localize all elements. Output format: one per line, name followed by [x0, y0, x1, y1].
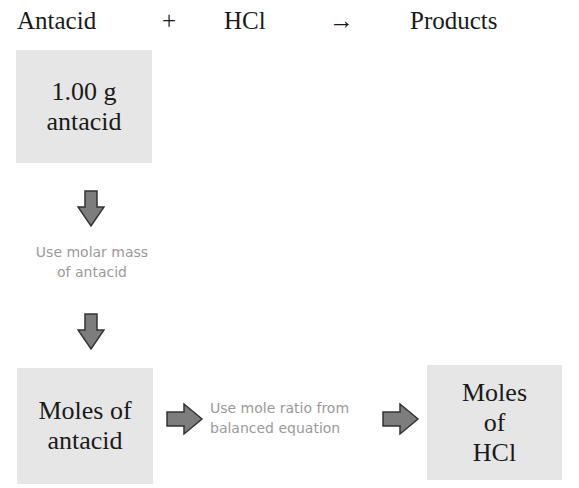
right-arrow-icon	[166, 402, 204, 436]
equation-plus-sign: +	[162, 6, 176, 36]
box-grams-antacid-line1: 1.00 g	[46, 77, 121, 107]
equation-yields-arrow: →	[329, 6, 354, 36]
equation-reactant-hcl: HCl	[224, 6, 266, 36]
step-mole-ratio-line1: Use mole ratio from	[210, 398, 349, 418]
right-arrow-icon	[382, 402, 420, 436]
step-molar-mass-line2: of antacid	[0, 262, 184, 282]
equation-reactant-antacid: Antacid	[17, 6, 96, 36]
box-moles-hcl-line1: Moles	[462, 378, 527, 408]
step-mole-ratio-line2: balanced equation	[210, 418, 349, 438]
step-mole-ratio-note: Use mole ratio from balanced equation	[210, 398, 349, 438]
box-moles-hcl-line3: HCl	[462, 438, 527, 468]
box-moles-antacid-line2: antacid	[38, 426, 131, 456]
step-molar-mass-note: Use molar mass of antacid	[0, 242, 184, 282]
down-arrow-icon	[77, 313, 105, 351]
box-moles-antacid-line1: Moles of	[38, 396, 131, 426]
box-moles-antacid: Moles of antacid	[17, 368, 153, 484]
box-moles-hcl-line2: of	[462, 408, 527, 438]
box-grams-antacid: 1.00 g antacid	[16, 50, 152, 163]
down-arrow-icon	[77, 190, 105, 228]
box-moles-hcl: Moles of HCl	[427, 365, 562, 480]
step-molar-mass-line1: Use molar mass	[0, 242, 184, 262]
box-grams-antacid-line2: antacid	[46, 107, 121, 137]
equation-products: Products	[410, 6, 498, 36]
